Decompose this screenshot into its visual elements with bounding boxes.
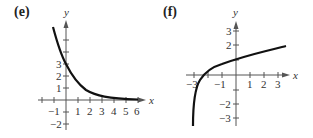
panel-label-e: (e) bbox=[14, 4, 30, 20]
svg-text:3: 3 bbox=[56, 58, 62, 70]
svg-text:1: 1 bbox=[247, 78, 253, 90]
y-axis-label: y bbox=[63, 6, 69, 18]
svg-text:5: 5 bbox=[123, 105, 129, 117]
svg-text:6: 6 bbox=[134, 105, 140, 117]
svg-text:3: 3 bbox=[275, 78, 281, 90]
y-axis-arrow-icon bbox=[234, 21, 239, 29]
y-axis-label: y bbox=[232, 6, 238, 18]
svg-text:2: 2 bbox=[87, 105, 93, 117]
svg-text:2: 2 bbox=[56, 70, 62, 82]
x-axis-label: x bbox=[292, 69, 298, 81]
panel-label-f: (f) bbox=[163, 4, 177, 20]
x-axis-arrow-icon bbox=[138, 98, 146, 103]
y-axis-arrow-icon bbox=[64, 20, 69, 28]
svg-text:2: 2 bbox=[226, 39, 232, 51]
svg-text:−1: −1 bbox=[214, 78, 226, 90]
y-tick-labels: 3 2 1 −2 bbox=[50, 58, 62, 130]
svg-text:4: 4 bbox=[111, 105, 117, 117]
logarithmic-curve bbox=[193, 46, 286, 126]
chart-panel-f: (f) y x −3 −1 1 2 3 bbox=[163, 4, 298, 126]
svg-text:1: 1 bbox=[75, 105, 81, 117]
chart-panel-e: (e) y x −1 1 2 3 4 5 6 bbox=[14, 4, 154, 130]
svg-text:−2: −2 bbox=[219, 98, 231, 110]
x-axis-arrow-icon bbox=[282, 73, 290, 78]
svg-text:−2: −2 bbox=[50, 118, 62, 130]
x-tick-labels: −1 1 2 3 4 5 6 bbox=[48, 105, 140, 117]
svg-text:3: 3 bbox=[226, 25, 232, 37]
svg-text:−1: −1 bbox=[48, 105, 60, 117]
figure: (e) y x −1 1 2 3 4 5 6 bbox=[0, 0, 313, 138]
svg-text:−3: −3 bbox=[219, 112, 231, 124]
svg-text:2: 2 bbox=[261, 78, 267, 90]
svg-text:3: 3 bbox=[99, 105, 105, 117]
svg-text:1: 1 bbox=[56, 82, 62, 94]
x-axis-label: x bbox=[148, 94, 154, 106]
